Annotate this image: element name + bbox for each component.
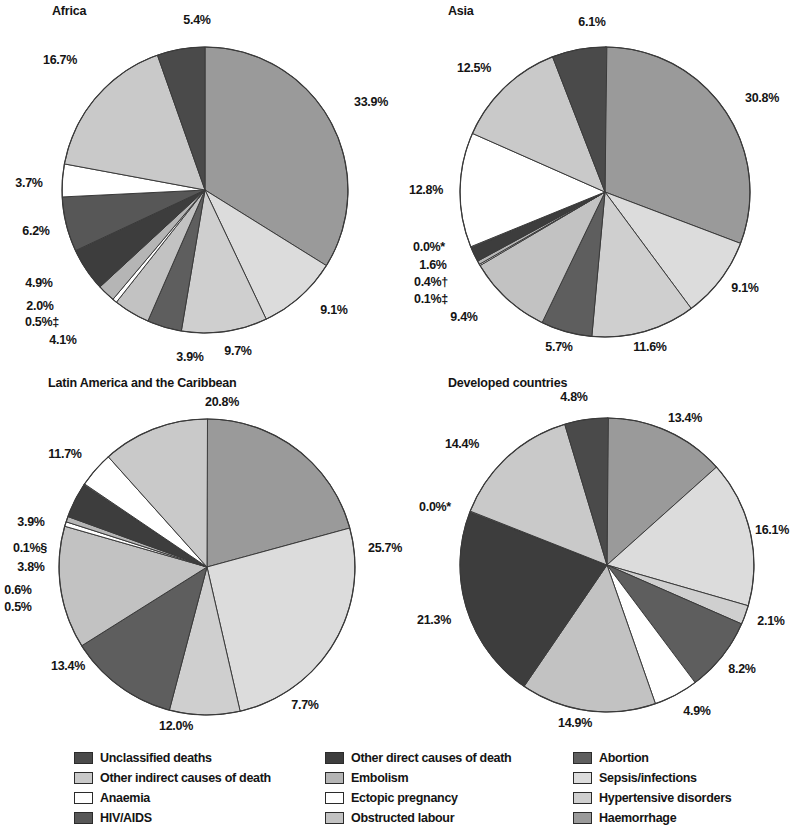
pie-chart-africa: 33.9%9.1%9.7%3.9%4.1%0.5%‡2.0%4.9%6.2%3.… [0, 0, 402, 375]
slice-value-label-other_direct: 4.9% [25, 276, 52, 290]
slice-value-label-hypertensive: 9.7% [224, 344, 251, 358]
legend-item-label: Other indirect causes of death [100, 771, 271, 785]
legend-item-label: Hypertensive disorders [599, 791, 731, 805]
slice-value-label-other_indirect: 12.5% [457, 61, 491, 75]
slice-value-label-embolism: 0.6% [4, 583, 31, 597]
legend-item-label: Anaemia [100, 791, 150, 805]
slice-value-label-hypertensive: 2.1% [757, 614, 784, 628]
legend-item: Hypertensive disorders [573, 788, 731, 807]
legend-item-label: Haemorrhage [599, 811, 676, 825]
slice-value-label-obstructed: 9.4% [450, 310, 477, 324]
slice-value-label-obstructed: 14.9% [558, 716, 592, 730]
legend-item: Obstructed labour [325, 808, 511, 827]
slice-value-label-sepsis: 25.7% [368, 541, 402, 555]
pie-panel-latin-america: Latin America and the Caribbean 20.8%25.… [0, 372, 402, 747]
slice-value-label-hiv_aids: 0.0%* [413, 240, 445, 254]
legend-item: Other direct causes of death [325, 748, 511, 767]
legend-item-label: Sepsis/infections [599, 771, 697, 785]
legend-swatch-icon [74, 812, 93, 824]
slice-value-label-unclassified: 5.4% [183, 13, 210, 27]
pie-chart-latin-america: 20.8%25.7%7.7%12.0%13.4%0.5%0.6%3.8%0.1%… [0, 372, 402, 747]
legend-item: Unclassified deaths [74, 748, 271, 767]
slice-value-label-anaemia: 3.9% [17, 515, 44, 529]
legend-item-label: Embolism [351, 771, 408, 785]
legend-item-label: HIV/AIDS [100, 811, 152, 825]
legend-item: Sepsis/infections [573, 768, 731, 787]
legend-item: HIV/AIDS [74, 808, 271, 827]
slice-value-label-haemorrhage: 30.8% [745, 91, 779, 105]
legend-item-label: Ectopic pregnancy [351, 791, 458, 805]
slice-value-label-hiv_aids: 0.1%§ [13, 541, 47, 555]
legend-swatch-icon [573, 752, 592, 764]
legend-item: Embolism [325, 768, 511, 787]
slice-value-label-sepsis: 9.1% [320, 303, 347, 317]
slice-value-label-abortion: 3.9% [176, 350, 203, 364]
legend-swatch-icon [325, 752, 344, 764]
legend-swatch-icon [325, 772, 344, 784]
pie-chart-asia: 30.8%9.1%11.6%5.7%9.4%0.1%‡0.4%†1.6%0.0%… [402, 0, 804, 375]
slice-value-label-other_indirect: 14.4% [445, 437, 479, 451]
legend-swatch-icon [74, 752, 93, 764]
legend-item-label: Unclassified deaths [100, 751, 212, 765]
legend-swatch-icon [325, 812, 344, 824]
chart-legend: Unclassified deathsOther indirect causes… [0, 748, 804, 831]
slice-value-label-sepsis: 9.1% [731, 281, 758, 295]
legend-item: Haemorrhage [573, 808, 731, 827]
slice-value-label-embolism: 0.4%† [414, 275, 448, 289]
legend-swatch-icon [573, 792, 592, 804]
pie-panel-developed-countries: Developed countries 13.4%16.1%2.1%8.2%4.… [402, 372, 804, 747]
slice-value-label-other_direct: 1.6% [419, 258, 446, 272]
slice-value-label-other_indirect: 16.7% [43, 53, 77, 67]
legend-column-3: AbortionSepsis/infectionsHypertensive di… [573, 748, 731, 828]
pie-svg [0, 372, 402, 747]
slice-value-label-ectopic: 0.5% [4, 600, 31, 614]
maternal-death-causes-figure: Africa 33.9%9.1%9.7%3.9%4.1%0.5%‡2.0%4.9… [0, 0, 804, 831]
legend-swatch-icon [573, 812, 592, 824]
legend-swatch-icon [573, 772, 592, 784]
legend-column-1: Unclassified deathsOther indirect causes… [74, 748, 271, 828]
slice-value-label-abortion: 8.2% [728, 662, 755, 676]
pie-panel-africa: Africa 33.9%9.1%9.7%3.9%4.1%0.5%‡2.0%4.9… [0, 0, 402, 375]
pie-chart-developed-countries: 13.4%16.1%2.1%8.2%4.9%14.9%21.3%0.0%*14.… [402, 372, 804, 747]
slice-value-label-hypertensive: 7.7% [291, 698, 318, 712]
legend-item: Other indirect causes of death [74, 768, 271, 787]
slice-value-label-unclassified: 6.1% [578, 15, 605, 29]
slice-value-label-other_direct: 21.3% [417, 613, 451, 627]
slice-value-label-ectopic: 4.9% [683, 704, 710, 718]
slice-value-label-hypertensive: 11.6% [633, 340, 666, 354]
slice-value-label-haemorrhage: 33.9% [354, 95, 388, 109]
slice-value-label-abortion: 12.0% [159, 719, 193, 733]
legend-item-label: Abortion [599, 751, 649, 765]
legend-item: Ectopic pregnancy [325, 788, 511, 807]
slice-value-label-unclassified: 4.8% [560, 390, 587, 404]
legend-swatch-icon [74, 792, 93, 804]
pie-svg [402, 372, 804, 747]
slice-value-label-hiv_aids: 6.2% [22, 224, 49, 238]
slice-value-label-haemorrhage: 20.8% [205, 395, 239, 409]
slice-value-label-sepsis: 16.1% [755, 523, 789, 537]
slice-value-label-haemorrhage: 13.4% [668, 411, 702, 425]
slice-value-label-ectopic: 0.1%‡ [414, 292, 448, 306]
pie-panel-asia: Asia 30.8%9.1%11.6%5.7%9.4%0.1%‡0.4%†1.6… [402, 0, 804, 375]
slice-value-label-other_indirect: 11.7% [48, 447, 81, 461]
slice-value-label-ectopic: 0.5%‡ [25, 315, 59, 329]
legend-item-label: Obstructed labour [351, 811, 454, 825]
slice-value-label-embolism: 2.0% [26, 299, 53, 313]
legend-column-2: Other direct causes of deathEmbolismEcto… [325, 748, 511, 828]
slice-value-label-anaemia: 12.8% [409, 183, 443, 197]
legend-item: Anaemia [74, 788, 271, 807]
legend-item-label: Other direct causes of death [351, 751, 511, 765]
legend-item: Abortion [573, 748, 731, 767]
slice-value-label-anaemia: 3.7% [15, 176, 42, 190]
slice-value-label-other_direct: 3.8% [17, 560, 44, 574]
slice-value-label-obstructed: 13.4% [51, 659, 85, 673]
slice-value-label-obstructed: 4.1% [49, 333, 76, 347]
slice-value-label-abortion: 5.7% [545, 340, 572, 354]
legend-swatch-icon [74, 772, 93, 784]
slice-value-label-hiv_aids: 0.0%* [419, 500, 451, 514]
legend-swatch-icon [325, 792, 344, 804]
